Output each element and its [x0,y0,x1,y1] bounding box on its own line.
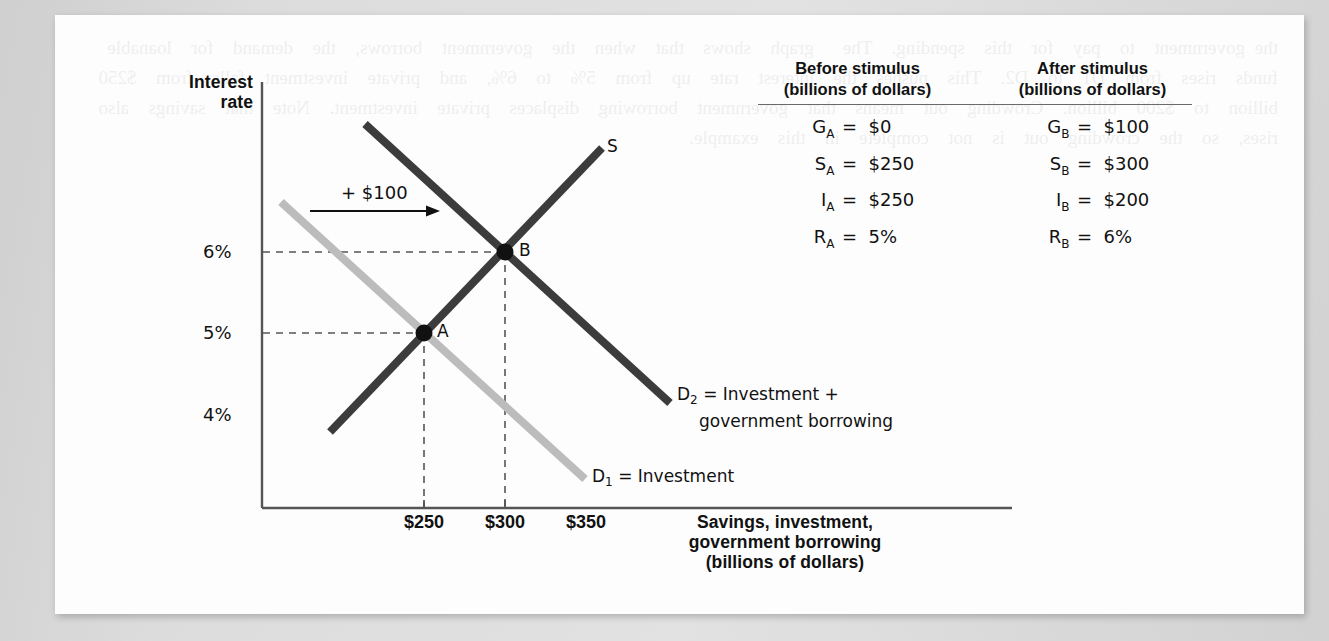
row-symbol: IB [1008,185,1076,222]
x-axis-title: Savings, investment, government borrowin… [655,512,915,572]
x-axis-title-line2: government borrowing [655,532,915,552]
supply-curve-label: S [607,136,618,157]
demand2-text-line1: = Investment + [703,384,839,404]
table-row: IA = $250 [740,185,975,222]
row-symbol-subscript: A [826,127,834,141]
demand1-subscript: 1 [605,475,613,489]
y-tick-label-6pct: 6% [203,241,232,262]
demand1-symbol: D [592,466,605,486]
x-axis-title-line3: (billions of dollars) [655,552,915,572]
table-column-after: GB = $100 SB = $300 IB = $200 RB = 6% [975,112,1210,258]
row-symbol-subscript: B [1061,200,1069,214]
row-symbol-subscript: A [826,163,834,177]
table-header-after-line2: (billions of dollars) [975,79,1210,100]
row-value: $250 [859,149,943,186]
row-equals: = [841,112,859,149]
row-symbol-letter: S [815,153,826,174]
x-tick-label-300: $300 [485,512,525,533]
row-equals: = [841,185,859,222]
row-symbol: SB [1008,149,1076,186]
y-axis-title-line1: Interest [181,72,253,92]
demand1-curve-label: D1 = Investment [592,466,734,493]
row-value: $100 [1094,112,1178,149]
row-value: $250 [859,185,943,222]
row-equals: = [1076,112,1094,149]
table-row: RB = 6% [975,222,1210,259]
row-symbol-subscript: B [1061,163,1069,177]
shift-arrow-label: + $100 [341,182,408,203]
row-symbol-subscript: B [1061,127,1069,141]
table-row: IB = $200 [975,185,1210,222]
row-equals: = [1076,149,1094,186]
row-symbol-letter: G [812,116,826,137]
table-row: RA = 5% [740,222,975,259]
demand2-curve-label: D2 = Investment + government borrowing [677,384,893,432]
table-header-after: After stimulus (billions of dollars) [975,58,1210,100]
row-symbol: IA [773,185,841,222]
row-value: 5% [859,222,943,259]
y-tick-label-4pct: 4% [203,404,232,425]
row-equals: = [1076,222,1094,259]
point-a-label: A [437,321,449,341]
table-header-rule [758,104,1192,105]
stimulus-comparison-table: Before stimulus (billions of dollars) Af… [740,58,1210,258]
row-symbol-letter: R [1049,226,1062,247]
demand2-symbol: D [677,384,690,404]
table-header-before: Before stimulus (billions of dollars) [740,58,975,100]
row-value: 6% [1094,222,1178,259]
table-column-before: GA = $0 SA = $250 IA = $250 RA = 5% [740,112,975,258]
point-b-label: B [519,240,531,260]
y-tick-label-5pct: 5% [203,322,232,343]
table-header-after-line1: After stimulus [975,58,1210,79]
y-axis-title: Interest rate [181,72,253,112]
row-value: $0 [859,112,943,149]
row-symbol: GA [773,112,841,149]
row-symbol: RB [1008,222,1076,259]
demand2-text-line2: government borrowing [677,411,893,432]
table-row: GB = $100 [975,112,1210,149]
row-symbol: RA [773,222,841,259]
table-body: GA = $0 SA = $250 IA = $250 RA = 5% G [740,112,1210,258]
row-equals: = [1076,185,1094,222]
x-axis-title-line1: Savings, investment, [655,512,915,532]
row-symbol-subscript: A [826,236,834,250]
row-equals: = [841,149,859,186]
demand2-subscript: 2 [690,393,698,407]
demand2-line1: D2 = Investment + [677,384,893,411]
row-equals: = [841,222,859,259]
table-header-before-line2: (billions of dollars) [740,79,975,100]
row-value: $300 [1094,149,1178,186]
row-symbol: SA [773,149,841,186]
table-row: SA = $250 [740,149,975,186]
row-symbol: GB [1008,112,1076,149]
row-symbol-letter: S [1050,153,1061,174]
row-symbol-subscript: B [1061,236,1069,250]
table-header-before-line1: Before stimulus [740,58,975,79]
demand1-text: = Investment [618,466,734,486]
row-symbol-letter: G [1047,116,1061,137]
x-tick-label-350: $350 [566,512,606,533]
x-tick-label-250: $250 [404,512,444,533]
row-symbol-letter: R [814,226,827,247]
row-symbol-subscript: A [826,200,834,214]
table-header-row: Before stimulus (billions of dollars) Af… [740,58,1210,100]
table-row: GA = $0 [740,112,975,149]
table-row: SB = $300 [975,149,1210,186]
row-value: $200 [1094,185,1178,222]
y-axis-title-line2: rate [181,92,253,112]
